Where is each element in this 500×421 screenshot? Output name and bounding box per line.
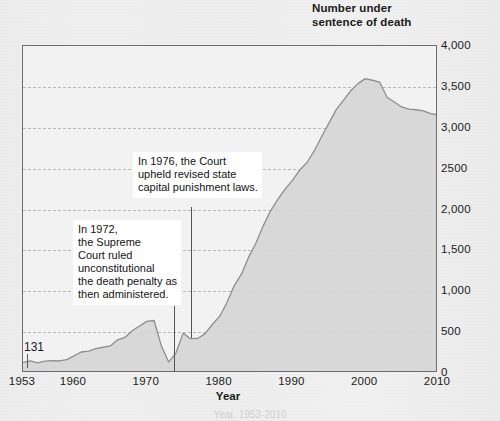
- annotation-1976: In 1976, the Court upheld revised state …: [133, 152, 262, 198]
- figure-caption: Year, 1953-2010: [213, 409, 286, 418]
- y-axis-tick-label: 1,000: [441, 284, 471, 296]
- y-axis-tick-label: 2,000: [441, 203, 471, 215]
- annotation-1972: In 1972, the Supreme Court ruled unconst…: [73, 220, 181, 305]
- x-axis-tick-label: 2010: [424, 375, 450, 387]
- y-axis-title-line-1: Number under: [312, 2, 482, 16]
- start-value-label: 131: [24, 340, 44, 354]
- chart-page: Number under sentence of death 131 In 19…: [0, 0, 500, 421]
- y-axis-tick-label: 2500: [441, 162, 467, 174]
- leader-line-1972: [174, 306, 175, 372]
- x-axis-tick-label: 1990: [278, 375, 304, 387]
- leader-line-1976: [191, 207, 192, 338]
- y-axis-tick-label: 500: [441, 325, 461, 337]
- x-axis-tick-label: 1980: [205, 375, 231, 387]
- plot-area: [22, 45, 437, 372]
- y-axis-tick-label: 4,000: [441, 39, 471, 51]
- x-axis-tick-label: 1970: [133, 375, 159, 387]
- y-axis-tick-label: 1,500: [441, 243, 471, 255]
- start-value-tick: [27, 354, 28, 368]
- x-axis-title: Year: [216, 390, 240, 402]
- y-axis-title-line-2: sentence of death: [312, 16, 482, 30]
- x-axis-tick-label: 1960: [60, 375, 86, 387]
- x-axis-tick-label: 2000: [351, 375, 377, 387]
- y-axis-tick-label: 3,500: [441, 80, 471, 92]
- y-axis-title: Number under sentence of death: [312, 2, 482, 29]
- y-axis-tick-label: 3,000: [441, 121, 471, 133]
- x-axis-tick-label: 1953: [9, 375, 35, 387]
- area-series: [23, 46, 437, 372]
